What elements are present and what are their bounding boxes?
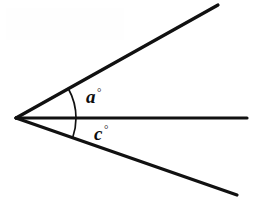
degree-symbol-a: ° [97, 86, 102, 98]
angle-diagram-canvas [0, 0, 261, 212]
lower-ray [16, 118, 237, 195]
angle-variable-a: a [86, 86, 96, 107]
upper-ray [16, 5, 218, 118]
arc-c [73, 118, 76, 138]
degree-symbol-c: ° [104, 123, 109, 135]
angle-diagram: a° c° [0, 0, 261, 212]
arc-a [68, 89, 76, 118]
angle-label-a: a° [86, 87, 102, 106]
angle-label-c: c° [94, 124, 109, 143]
angle-variable-c: c [94, 123, 103, 144]
